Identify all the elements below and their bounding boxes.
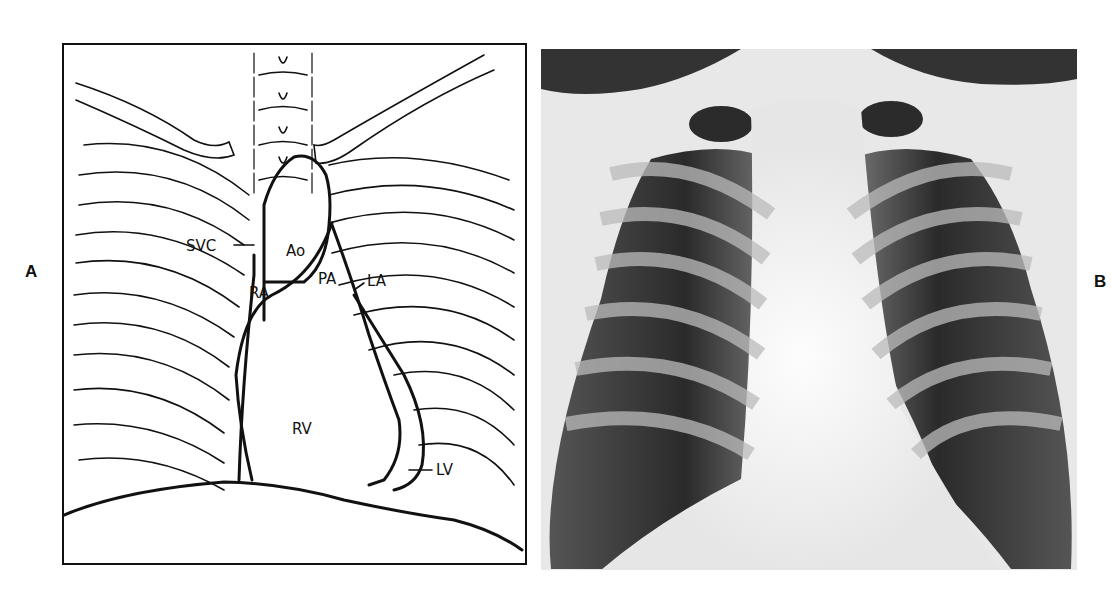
label-pulmonary-artery: PA	[318, 270, 337, 288]
label-right-atrium: RA	[249, 284, 270, 302]
label-right-ventricle: RV	[292, 420, 313, 438]
label-superior-vena-cava: SVC	[186, 237, 216, 255]
heart-diagram-panel: Ao SVC RA PA LA RV LV	[62, 43, 527, 565]
label-aorta: Ao	[286, 242, 305, 260]
chest-line-drawing: Ao SVC RA PA LA RV LV	[64, 45, 529, 567]
label-left-atrium: LA	[367, 272, 387, 290]
chest-xray-image	[541, 49, 1077, 570]
panel-label-a: A	[25, 262, 37, 282]
panel-label-b: B	[1094, 272, 1106, 292]
chest-xray-panel	[541, 49, 1077, 570]
label-left-ventricle: LV	[436, 461, 454, 479]
